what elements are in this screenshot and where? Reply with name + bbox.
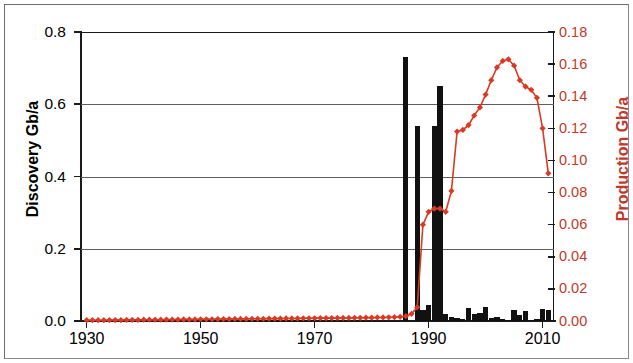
production-marker — [357, 315, 363, 321]
x-tick-label: 1970 — [297, 331, 333, 347]
right-tick-label: 0.08 — [559, 185, 587, 200]
production-marker — [95, 317, 101, 323]
production-marker — [129, 317, 135, 323]
left-tick-label: 0.6 — [44, 96, 66, 112]
production-marker — [283, 315, 289, 321]
right-tick-label: 0.04 — [559, 249, 587, 264]
production-marker — [448, 188, 454, 194]
x-tick-mark — [314, 321, 316, 328]
left-tick-label: 0.0 — [44, 313, 66, 329]
production-marker — [431, 206, 437, 212]
production-marker — [135, 317, 141, 323]
right-tick-label: 0.16 — [559, 57, 587, 72]
production-marker — [289, 315, 295, 321]
production-marker — [426, 209, 432, 215]
production-marker — [123, 317, 129, 323]
production-marker — [84, 317, 90, 323]
left-axis-title: Discovery Gb/a — [24, 49, 42, 269]
production-line — [81, 32, 554, 321]
production-marker — [112, 317, 118, 323]
production-marker — [545, 170, 551, 176]
production-marker — [89, 317, 95, 323]
production-marker — [397, 314, 403, 320]
production-marker — [249, 316, 255, 322]
production-marker — [351, 315, 357, 321]
left-tick-label: 0.4 — [44, 169, 66, 185]
production-marker — [403, 313, 409, 319]
x-tick-label: 1990 — [411, 331, 447, 347]
production-marker — [329, 315, 335, 321]
right-tick-label: 0.02 — [559, 281, 587, 296]
right-axis-title: Production Gb/a — [614, 49, 632, 269]
plot-wrapper: 0.00.20.40.60.8 0.000.020.040.060.080.10… — [0, 0, 633, 363]
production-marker — [374, 314, 380, 320]
x-tick-mark — [542, 321, 544, 328]
production-marker — [255, 316, 261, 322]
production-marker — [323, 315, 329, 321]
production-marker — [391, 314, 397, 320]
production-line-path — [87, 59, 549, 320]
chart-figure: 0.00.20.40.60.8 0.000.020.040.060.080.10… — [0, 0, 633, 363]
x-tick-mark — [428, 321, 430, 328]
left-tick-mark — [74, 103, 81, 105]
x-tick-label: 2010 — [525, 331, 561, 347]
x-tick-label: 1930 — [69, 331, 105, 347]
production-marker — [386, 314, 392, 320]
x-tick-label: 1950 — [183, 331, 219, 347]
production-marker — [346, 315, 352, 321]
production-marker — [106, 317, 112, 323]
production-marker — [334, 315, 340, 321]
production-marker — [141, 317, 147, 323]
right-tick-label: 0.06 — [559, 217, 587, 232]
production-marker — [369, 315, 375, 321]
right-tick-label: 0.18 — [559, 25, 587, 40]
left-tick-label: 0.8 — [44, 24, 66, 40]
production-marker — [483, 92, 489, 98]
production-marker — [443, 209, 449, 215]
right-tick-label: 0.14 — [559, 89, 587, 104]
production-marker — [312, 315, 318, 321]
left-tick-mark — [74, 176, 81, 178]
production-marker — [340, 315, 346, 321]
right-tick-label: 0.12 — [559, 121, 587, 136]
right-tick-label: 0.10 — [559, 153, 587, 168]
production-marker — [488, 77, 494, 83]
production-marker — [146, 317, 152, 323]
production-marker — [101, 317, 107, 323]
left-tick-mark — [74, 248, 81, 250]
production-marker — [540, 125, 546, 131]
production-marker — [363, 315, 369, 321]
production-marker — [306, 315, 312, 321]
left-tick-label: 0.2 — [44, 241, 66, 257]
right-tick-label: 0.00 — [559, 314, 587, 329]
production-marker — [272, 315, 278, 321]
production-marker — [317, 315, 323, 321]
production-marker — [454, 128, 460, 134]
production-marker — [118, 317, 124, 323]
production-marker — [300, 315, 306, 321]
production-marker — [266, 315, 272, 321]
production-marker — [158, 317, 164, 323]
production-marker — [294, 315, 300, 321]
production-marker — [152, 317, 158, 323]
left-tick-mark — [74, 31, 81, 33]
left-tick-mark — [74, 320, 81, 322]
production-marker — [260, 316, 266, 322]
production-marker — [420, 222, 426, 228]
production-marker — [437, 206, 443, 212]
production-marker — [277, 315, 283, 321]
production-marker — [380, 314, 386, 320]
